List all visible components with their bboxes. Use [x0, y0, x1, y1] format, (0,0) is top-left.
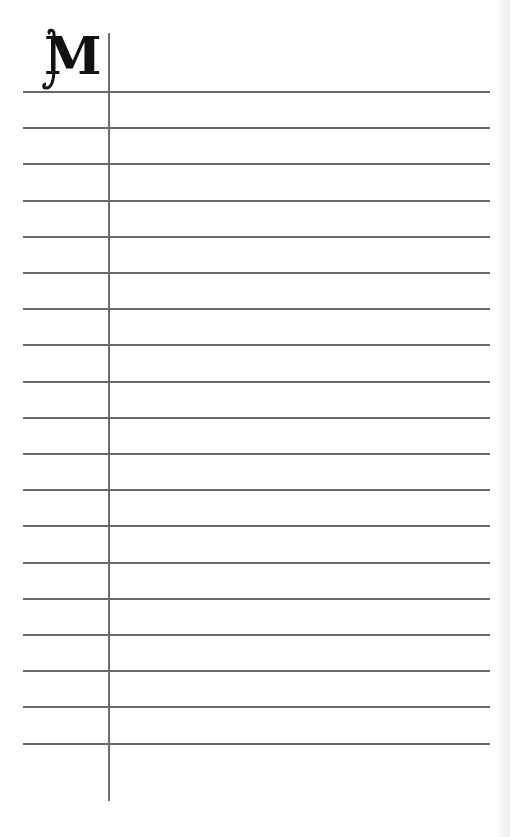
- ruled-line: [23, 489, 490, 491]
- ruled-line: [23, 200, 490, 202]
- ruled-line: [23, 127, 490, 129]
- ruled-line: [23, 91, 490, 93]
- page-edge-shadow: [494, 0, 510, 837]
- ruled-line: [23, 706, 490, 708]
- ruled-line: [23, 272, 490, 274]
- ruled-line: [23, 598, 490, 600]
- ruled-line: [23, 525, 490, 527]
- ruled-line: [23, 562, 490, 564]
- ruled-line: [23, 417, 490, 419]
- ruled-line: [23, 344, 490, 346]
- ruled-line: [23, 163, 490, 165]
- ruled-line: [23, 236, 490, 238]
- ruled-line: [23, 743, 490, 745]
- monogram-initial: M: [44, 26, 88, 90]
- ruled-line: [23, 308, 490, 310]
- ruled-line: [23, 453, 490, 455]
- ruled-line: [23, 634, 490, 636]
- ruled-line: [23, 670, 490, 672]
- ruled-line: [23, 381, 490, 383]
